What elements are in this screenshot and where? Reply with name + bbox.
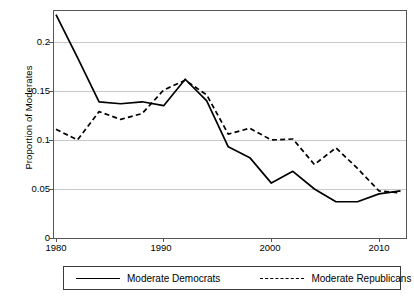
plot-frame bbox=[53, 10, 406, 238]
legend-entry-democrats: Moderate Democrats bbox=[76, 267, 220, 289]
legend-entry-republicans: Moderate Republicans bbox=[260, 267, 411, 289]
solid-line-swatch-icon bbox=[76, 273, 120, 283]
chart-legend: Moderate Democrats Moderate Republicans bbox=[63, 266, 401, 290]
series-line-moderate-democrats bbox=[56, 15, 401, 202]
plot-area bbox=[0, 0, 414, 299]
legend-label-democrats: Moderate Democrats bbox=[127, 273, 220, 284]
gridlines bbox=[53, 42, 406, 238]
axis-ticks bbox=[49, 42, 379, 242]
data-series bbox=[56, 15, 401, 202]
dashed-line-swatch-icon bbox=[260, 273, 304, 283]
chart-figure: Proportion of Moderates 0.2 0.15 0.1 0.0… bbox=[0, 0, 414, 299]
legend-label-republicans: Moderate Republicans bbox=[311, 273, 411, 284]
series-line-moderate-republicans bbox=[56, 80, 401, 193]
